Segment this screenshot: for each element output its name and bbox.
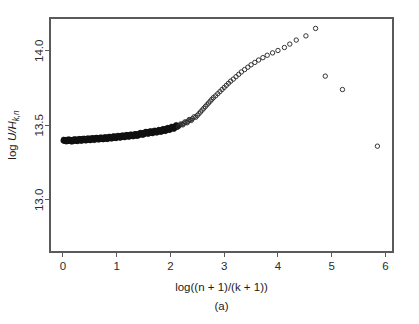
data-point [256, 58, 260, 62]
y-tick-label: 13.5 [33, 114, 45, 136]
data-point [294, 38, 298, 42]
data-point [261, 55, 265, 59]
data-point [270, 51, 274, 55]
data-point [323, 74, 327, 78]
data-point [340, 87, 344, 91]
y-axis-title: log U/Hk,n [6, 110, 21, 160]
x-tick-label: 6 [382, 260, 388, 272]
x-tick-label: 4 [275, 260, 282, 272]
x-tick-label: 0 [60, 260, 66, 272]
x-tick-label: 3 [221, 260, 227, 272]
y-tick-label: 13.0 [33, 189, 45, 211]
x-tick-label: 1 [113, 260, 119, 272]
data-point [265, 53, 269, 57]
data-point [276, 48, 280, 52]
plot-canvas: 012345613.013.514.0log((n + 1)/(k + 1))(… [0, 0, 419, 324]
panel-label: (a) [214, 300, 228, 312]
data-point [288, 42, 292, 46]
data-point [375, 144, 379, 148]
data-point [304, 34, 308, 38]
x-axis-title: log((n + 1)/(k + 1)) [175, 281, 268, 293]
scatter-plot-figure: 012345613.013.514.0log((n + 1)/(k + 1))(… [0, 0, 419, 324]
data-point [313, 26, 317, 30]
data-point [282, 45, 286, 49]
data-points-group [61, 26, 380, 148]
x-tick-label: 5 [329, 260, 335, 272]
axis-labels-group: 012345613.013.514.0log((n + 1)/(k + 1))(… [6, 40, 389, 312]
x-tick-label: 2 [167, 260, 173, 272]
y-tick-label: 14.0 [33, 40, 45, 62]
